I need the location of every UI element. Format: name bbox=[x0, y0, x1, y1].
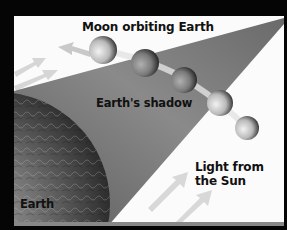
bottom-band bbox=[14, 222, 284, 226]
moon-icon bbox=[89, 36, 117, 64]
moon-icon bbox=[171, 67, 197, 93]
earth-shadow-label: Earth's shadow bbox=[96, 98, 192, 110]
diagram-frame bbox=[14, 16, 284, 226]
earth-label: Earth bbox=[20, 199, 54, 211]
moon-icon bbox=[131, 49, 159, 77]
moon-orbit-label: Moon orbiting Earth bbox=[82, 21, 214, 33]
lunar-eclipse-illustration bbox=[14, 16, 284, 226]
sunlight-label-line1: Light from bbox=[195, 160, 264, 174]
sunlight-label: Light from the Sun bbox=[195, 160, 264, 188]
sunlight-label-line2: the Sun bbox=[195, 174, 264, 188]
moon-icon bbox=[235, 116, 259, 140]
moon-icon bbox=[207, 90, 233, 116]
diagram-canvas: Moon orbiting Earth Earth's shadow Light… bbox=[0, 0, 287, 230]
